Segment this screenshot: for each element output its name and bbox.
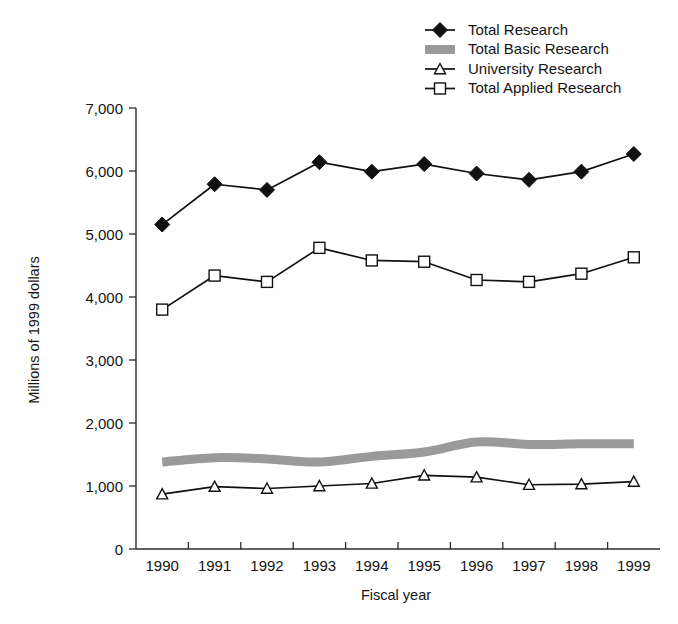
y-tick-label: 6,000 xyxy=(85,163,123,180)
x-tick-label: 1993 xyxy=(303,557,336,574)
y-tick-label: 1,000 xyxy=(85,478,123,495)
data-point-square xyxy=(524,276,535,287)
data-point-square xyxy=(209,270,220,281)
legend-label: Total Basic Research xyxy=(468,40,609,57)
y-tick-label: 3,000 xyxy=(85,352,123,369)
chart-container: 01,0002,0003,0004,0005,0006,0007,000 199… xyxy=(0,0,678,624)
x-tick-label: 1994 xyxy=(355,557,388,574)
data-point-square xyxy=(262,276,273,287)
x-axis-title: Fiscal year xyxy=(361,587,431,603)
x-tick-label: 1995 xyxy=(408,557,441,574)
y-tick-label: 0 xyxy=(115,541,123,558)
x-tick-label: 1996 xyxy=(460,557,493,574)
data-point-square xyxy=(628,252,639,263)
x-tick-label: 1991 xyxy=(198,557,231,574)
y-tick-label: 5,000 xyxy=(85,226,123,243)
data-point-square xyxy=(366,255,377,266)
legend-label: Total Research xyxy=(468,21,568,38)
x-tick-label: 1999 xyxy=(617,557,650,574)
y-tick-label: 4,000 xyxy=(85,289,123,306)
x-tick-label: 1990 xyxy=(146,557,179,574)
y-tick-label: 2,000 xyxy=(85,415,123,432)
x-tick-label: 1997 xyxy=(512,557,545,574)
line-chart: 01,0002,0003,0004,0005,0006,0007,000 199… xyxy=(0,0,678,624)
data-point-square xyxy=(576,268,587,279)
data-point-square xyxy=(157,304,168,315)
data-point-square xyxy=(419,256,430,267)
y-axis-title: Millions of 1999 dollars xyxy=(26,256,42,404)
legend-label: Total Applied Research xyxy=(468,79,621,96)
legend-label: University Research xyxy=(468,60,602,77)
data-point-square xyxy=(471,274,482,285)
data-point-square xyxy=(314,242,325,253)
y-tick-label: 7,000 xyxy=(85,100,123,117)
data-point-square xyxy=(435,83,446,94)
x-tick-label: 1992 xyxy=(250,557,283,574)
x-tick-label: 1998 xyxy=(565,557,598,574)
